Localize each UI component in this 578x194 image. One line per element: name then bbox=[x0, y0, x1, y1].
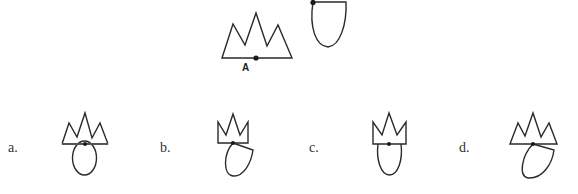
option-b-dot bbox=[231, 141, 235, 145]
question-shield-figure bbox=[310, 0, 346, 47]
option-b-label: b. bbox=[160, 140, 171, 155]
point-a-dot bbox=[253, 55, 258, 60]
option-b-crown bbox=[218, 114, 248, 143]
shield-shape bbox=[312, 2, 346, 47]
option-c-oval bbox=[378, 144, 402, 175]
option-a-crown bbox=[62, 113, 108, 144]
shield-corner-dot bbox=[310, 0, 315, 5]
figure-canvas: A a. b. c. d. bbox=[0, 0, 578, 194]
option-d-dot bbox=[531, 142, 535, 146]
option-a-label: a. bbox=[8, 140, 18, 155]
option-a[interactable]: a. bbox=[8, 113, 110, 175]
option-c[interactable]: c. bbox=[309, 113, 406, 175]
option-c-dot bbox=[387, 142, 391, 146]
option-d[interactable]: d. bbox=[459, 113, 557, 178]
option-d-crown bbox=[510, 113, 557, 144]
crown-shape bbox=[222, 13, 292, 58]
option-b-shield bbox=[226, 143, 254, 176]
point-a-label: A bbox=[242, 62, 249, 73]
question-crown-figure: A bbox=[222, 13, 292, 73]
option-c-label: c. bbox=[309, 140, 319, 155]
option-d-shield bbox=[522, 144, 554, 178]
option-c-crown bbox=[373, 113, 406, 144]
option-a-dot bbox=[83, 142, 87, 146]
option-a-oval bbox=[73, 141, 97, 175]
option-d-label: d. bbox=[459, 140, 470, 155]
option-b[interactable]: b. bbox=[160, 114, 253, 176]
